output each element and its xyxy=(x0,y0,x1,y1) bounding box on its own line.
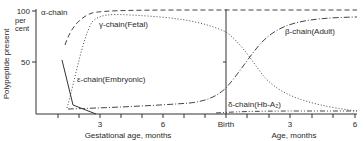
x-tick-label-6-age: 6 xyxy=(353,120,358,129)
x-axis-title-age: Age, months xyxy=(272,131,317,140)
epsilon-chain-label: ε-chain(Embryonic) xyxy=(77,75,146,84)
alpha-chain-label: α-chain xyxy=(41,8,67,17)
y-tick-label-50: 50 xyxy=(21,58,30,67)
y-tick-label-100: 100 xyxy=(17,7,31,16)
x-tick-label-3-age: 3 xyxy=(288,120,293,129)
epsilon-chain-curve xyxy=(62,60,96,114)
x-ticks xyxy=(58,114,355,118)
beta-chain-label: β-chain(Adult) xyxy=(285,27,335,36)
x-axis-title-gestational: Gestational age, months xyxy=(85,131,172,140)
x-tick-label-3-gest: 3 xyxy=(98,120,103,129)
y-unit-cent: cent xyxy=(15,24,30,33)
delta-chain-curve xyxy=(216,111,357,113)
y-axis-title: Polypeptide present xyxy=(2,28,11,99)
hemoglobin-chain-chart: 100 50 per cent Polypeptide present α-ch… xyxy=(0,0,364,141)
gamma-chain-label: γ-chain(Fetal) xyxy=(99,20,148,29)
x-tick-label-6-gest: 6 xyxy=(161,120,166,129)
x-tick-label-birth: Birth xyxy=(218,120,234,129)
delta-chain-label: δ-chain(Hb-A₂) xyxy=(228,100,281,109)
